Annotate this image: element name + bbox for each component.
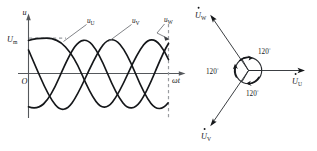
angle-label-bottom: 120° [246, 89, 259, 98]
phasor-label-u-sub: U [298, 81, 302, 87]
phasor-label-v: UV [201, 128, 211, 142]
angle-label-top: 120° [258, 47, 271, 56]
leader-line-u-phase-v [109, 25, 132, 42]
phasor-label-v-sub: V [207, 136, 211, 142]
angle-label-bottom-value: 120 [246, 90, 257, 98]
svg-text:UV: UV [201, 132, 211, 142]
angle-label-top-value: 120 [258, 48, 269, 56]
y-axis-label: u [23, 8, 27, 17]
y-axis [26, 14, 31, 119]
phasor-label-w: UW [195, 7, 207, 21]
angle-label-top-unit: ° [269, 47, 271, 52]
x-axis [18, 71, 186, 76]
leader-line-u-phase-w [157, 24, 165, 33]
phasor-label-w-sub: W [201, 15, 207, 21]
svg-text:UW: UW [195, 11, 207, 21]
curve-label-u-phase-w-sub: W [168, 19, 174, 25]
angle-label-left-unit: ° [217, 67, 219, 72]
x-axis-label: ωt [172, 76, 181, 85]
phasor-panel: 120° 120° 120° UW UU UV [195, 7, 305, 142]
angle-label-left-value: 120 [206, 68, 217, 76]
peak-amplitude-label: Um [7, 35, 18, 45]
phasor-v-dot-accent [204, 128, 206, 130]
curve-label-u-phase-v: uV [132, 17, 140, 26]
curve-label-u-phase-u: uU [87, 17, 95, 26]
leader-line-u-phase-u [64, 25, 87, 42]
angle-label-bottom-unit: ° [257, 89, 259, 94]
figure-canvas: u ωt O Um uU uV uW [0, 0, 317, 151]
curve-label-u-phase-v-sub: V [136, 20, 140, 26]
angle-label-left: 120° [206, 67, 219, 76]
three-phase-figure: u ωt O Um uU uV uW [0, 0, 317, 151]
waveform-u-phase-w [29, 40, 169, 110]
peak-amplitude-label-sub: m [13, 39, 18, 45]
svg-text:UU: UU [292, 77, 302, 87]
phasor-vector-v [210, 71, 248, 127]
phasor-vector-w [210, 15, 248, 71]
phasor-label-u: UU [292, 73, 302, 87]
curve-label-u-phase-w: uW [164, 16, 174, 25]
origin-label: O [22, 77, 28, 86]
phasor-w-dot-accent [198, 7, 200, 9]
x-axis-label-t: t [178, 76, 181, 85]
curve-label-u-phase-u-sub: U [91, 20, 95, 26]
phasor-u-dot-accent [295, 73, 297, 75]
waveform-panel: u ωt O Um uU uV uW [7, 8, 186, 121]
